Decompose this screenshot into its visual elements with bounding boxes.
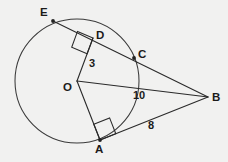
point-label-a: A [95, 144, 103, 156]
length-label-8: 8 [148, 120, 154, 131]
vertex-dot-e [51, 19, 55, 23]
point-label-e: E [40, 7, 48, 19]
point-label-d: D [96, 30, 104, 42]
point-label-c: C [138, 49, 146, 61]
point-label-b: B [212, 92, 220, 104]
geometry-canvas [0, 0, 228, 162]
segment-e-b [53, 21, 208, 97]
length-label-3: 3 [89, 58, 95, 69]
geometry-diagram: E D C O B A 3 10 8 [0, 0, 228, 162]
vertex-dot-c [132, 56, 136, 60]
right-angle-marker-d [72, 31, 93, 53]
vertex-dot-a [98, 138, 102, 142]
point-label-o: O [63, 82, 72, 94]
length-label-10: 10 [133, 90, 145, 101]
